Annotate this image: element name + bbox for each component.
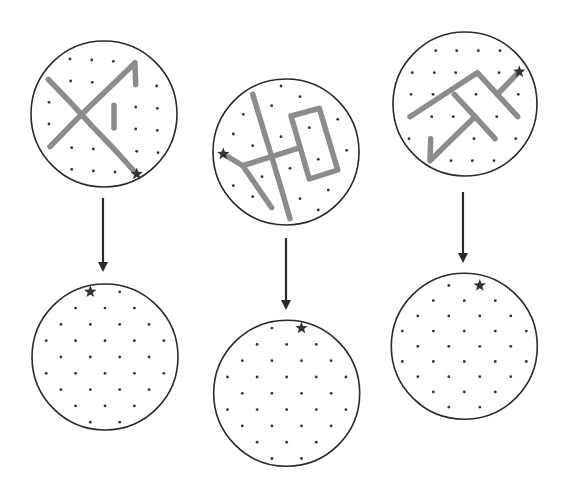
grid-dot [271, 457, 274, 460]
grid-dot [285, 376, 288, 379]
column-3 [391, 32, 537, 419]
grid-dot [256, 441, 259, 444]
top-circle [393, 32, 537, 176]
grid-dot [478, 315, 481, 318]
grid-dot [118, 388, 121, 391]
grid-dot [134, 106, 137, 109]
grid-dot [285, 343, 288, 346]
grid-dot [410, 93, 413, 96]
grid-dot [493, 159, 496, 162]
grid-dot [498, 71, 501, 74]
grid-dot [256, 408, 259, 411]
grid-dot [455, 49, 458, 52]
grid-dot [133, 405, 136, 408]
grid-dot [345, 376, 348, 379]
grid-dot [432, 360, 435, 363]
grid-dot [60, 388, 63, 391]
down-arrow [458, 192, 468, 263]
grid-dot [148, 323, 151, 326]
grid-dot [478, 375, 481, 378]
grid-dot [432, 299, 435, 302]
grid-dot [60, 323, 63, 326]
grid-dot [315, 376, 318, 379]
grid-dot [157, 151, 160, 154]
grid-dot [509, 375, 512, 378]
grid-dot [315, 441, 318, 444]
grid-dot [285, 441, 288, 444]
grid-dot [463, 299, 466, 302]
diagram-canvas [0, 0, 565, 495]
grid-dot [308, 126, 311, 129]
grid-dot [251, 195, 254, 198]
top-circle [213, 79, 359, 225]
grid-dot [118, 290, 121, 293]
grid-dot [226, 376, 229, 379]
grid-dot [148, 356, 151, 359]
grid-dot [330, 359, 333, 362]
grid-dot [60, 356, 63, 359]
grid-dot [271, 327, 274, 330]
grid-dot [133, 372, 136, 375]
column-2 [213, 79, 360, 466]
grid-dot [525, 330, 528, 333]
grid-dot [478, 345, 481, 348]
grid-dot [432, 330, 435, 333]
grid-dot [118, 421, 121, 424]
grid-dot [241, 359, 244, 362]
grid-dot [300, 457, 303, 460]
grid-dot [473, 137, 476, 140]
grid-dot [69, 80, 72, 83]
grid-dot [315, 408, 318, 411]
grid-dot [256, 376, 259, 379]
grid-dot [432, 93, 435, 96]
grid-dot [430, 115, 433, 118]
grid-dot [327, 189, 330, 192]
grid-dot [104, 339, 107, 342]
grid-dot [509, 315, 512, 318]
grid-dot [74, 307, 77, 310]
grid-dot [74, 339, 77, 342]
grid-dot [514, 137, 517, 140]
grid-dot [162, 372, 165, 375]
grid-dot [299, 197, 302, 200]
grid-dot [433, 71, 436, 74]
grid-dot [226, 408, 229, 411]
grid-dot [452, 115, 455, 118]
grid-dot [495, 115, 498, 118]
grid-dot [494, 360, 497, 363]
bottom-circle [32, 284, 178, 430]
grid-dot [112, 60, 115, 63]
grid-dot [478, 406, 481, 409]
grid-dot [92, 170, 95, 173]
grid-dot [241, 425, 244, 428]
grid-dot [499, 49, 502, 52]
grid-dot [90, 59, 93, 62]
grid-dot [416, 315, 419, 318]
grid-dot [434, 49, 437, 52]
grid-dot [89, 421, 92, 424]
grid-dot [74, 372, 77, 375]
grid-dot [74, 405, 77, 408]
grid-dot [91, 81, 94, 84]
grid-dot [289, 167, 292, 170]
grid-dot [432, 391, 435, 394]
grid-dot [401, 360, 404, 363]
grid-dot [285, 408, 288, 411]
grid-dot [475, 93, 478, 96]
grid-dot [45, 372, 48, 375]
grid-dot [411, 71, 414, 74]
arrow-down-icon [281, 300, 291, 310]
grid-dot [241, 392, 244, 395]
grid-dot [114, 171, 117, 174]
grid-dot [299, 95, 302, 98]
grid-dot [300, 425, 303, 428]
grid-dot [104, 307, 107, 310]
grid-dot [242, 113, 245, 116]
grid-dot [148, 388, 151, 391]
grid-dot [416, 375, 419, 378]
grid-dot [118, 356, 121, 359]
grid-dot [104, 372, 107, 375]
grid-dot [330, 425, 333, 428]
grid-dot [494, 391, 497, 394]
grid-dot [494, 330, 497, 333]
